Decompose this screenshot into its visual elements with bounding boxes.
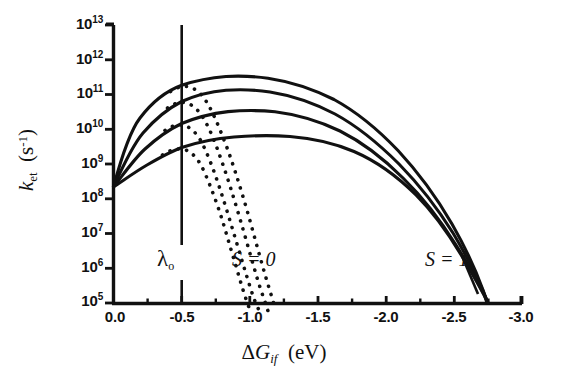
solid-curve-c bbox=[114, 111, 489, 303]
y-tick-label-12: 1012 bbox=[57, 50, 103, 67]
annotation-s-one: S = 1 bbox=[425, 248, 469, 271]
s-one-label: S = 1 bbox=[425, 248, 469, 270]
y-tick-exp-9: 9 bbox=[98, 153, 103, 164]
y-tick-exp-10: 10 bbox=[92, 118, 103, 129]
x-tick-label-6: -3.0 bbox=[508, 308, 533, 325]
y-tick-label-7: 107 bbox=[57, 223, 103, 240]
x-axis-title: ΔGif (eV) bbox=[242, 340, 327, 365]
y-axis-title-units-close: ) bbox=[14, 129, 38, 136]
lambda-subscript: o bbox=[168, 259, 174, 273]
y-tick-label-13: 1013 bbox=[57, 15, 103, 32]
y-axis-title-units-exp: -1 bbox=[15, 136, 30, 147]
y-tick-label-5: 105 bbox=[57, 292, 103, 309]
y-axis-title: ket (s-1) bbox=[14, 129, 39, 191]
x-tick-label-0: 0.0 bbox=[105, 308, 125, 325]
y-tick-exp-6: 6 bbox=[98, 257, 103, 268]
x-tick-label-1: -0.5 bbox=[169, 308, 194, 325]
solid-curve-d bbox=[114, 136, 489, 303]
y-tick-exp-13: 13 bbox=[92, 14, 103, 25]
y-axis-title-sub: et bbox=[25, 172, 40, 181]
x-axis-title-sub: if bbox=[270, 351, 277, 366]
annotation-lambda-o: λo bbox=[157, 246, 174, 272]
x-tick-label-3: -1.5 bbox=[305, 308, 330, 325]
lambda-symbol: λ bbox=[157, 246, 168, 271]
y-tick-label-11: 1011 bbox=[57, 84, 103, 101]
figure-container: 1013 1012 1011 1010 109 108 107 106 105 … bbox=[0, 0, 568, 382]
y-axis-title-k: k bbox=[14, 182, 38, 191]
dotted-curve-a bbox=[171, 86, 276, 308]
dotted-curve-c bbox=[165, 125, 260, 313]
y-tick-label-10: 1010 bbox=[57, 119, 103, 136]
y-tick-label-9: 109 bbox=[57, 154, 103, 171]
y-tick-label-6: 106 bbox=[57, 258, 103, 275]
x-tick-label-2: -1.0 bbox=[237, 308, 262, 325]
y-axis-title-units-open: (s bbox=[14, 147, 38, 162]
x-tick-label-5: -2.5 bbox=[441, 308, 466, 325]
annotation-s-zero: S = 0 bbox=[232, 248, 276, 271]
x-axis-title-g: G bbox=[255, 340, 270, 364]
x-tick-label-4: -2.0 bbox=[373, 308, 398, 325]
y-tick-exp-7: 7 bbox=[98, 222, 103, 233]
x-axis-title-delta: Δ bbox=[242, 340, 256, 364]
x-axis-title-units: (eV) bbox=[288, 340, 326, 364]
y-tick-label-8: 108 bbox=[57, 188, 103, 205]
dotted-curve-family bbox=[163, 86, 276, 313]
dotted-curve-d bbox=[163, 149, 251, 310]
y-tick-exp-8: 8 bbox=[98, 187, 103, 198]
s-zero-label: S = 0 bbox=[232, 248, 276, 270]
y-tick-exp-12: 12 bbox=[92, 49, 103, 60]
y-tick-exp-5: 5 bbox=[98, 291, 103, 302]
y-tick-exp-11: 11 bbox=[93, 83, 103, 94]
